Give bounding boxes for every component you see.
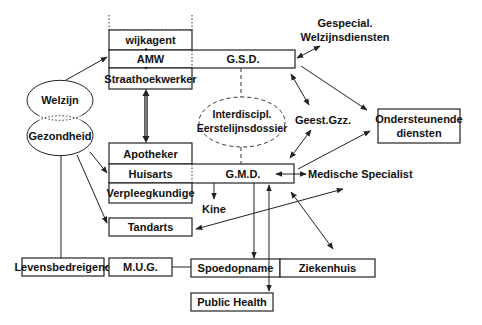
dossier-ellipse-group: Interdiscipl. Eerstelijnsdossier [197,68,287,164]
ondersteunende-label-2: diensten [396,127,442,139]
top-block: wijkagent AMW G.S.D. Straathoekwerker [104,30,295,89]
care-network-diagram: wijkagent AMW G.S.D. Straathoekwerker Ap… [0,0,482,325]
spoedopname-label: Spoedopname [198,262,274,274]
dossier-label-2: Eerstelijnsdossier [197,122,287,134]
bottom-row: Levensbedreigend M.U.G. Spoedopname Ziek… [14,258,375,311]
verpleegkundige-label: Verpleegkundige [106,187,194,199]
straathoek-apotheker-link [143,89,150,143]
tandarts-label: Tandarts [128,221,174,233]
dossier-label-1: Interdiscipl. [213,108,272,120]
ziekenhuis-label: Ziekenhuis [299,262,356,274]
medische-specialist-label: Medische Specialist [308,168,413,180]
geest-gzz-label: Geest.Gzz. [295,114,351,126]
gmd-label: G.M.D. [226,168,261,180]
middle-block: Apotheker Huisarts G.M.D. Verpleegkundig… [106,143,294,203]
mug-label: M.U.G. [123,261,158,273]
gezondheid-label: Gezondheid [29,130,92,142]
gespecial-label-1: Gespecial. [317,17,372,29]
huisarts-label: Huisarts [128,168,172,180]
amw-label: AMW [137,53,165,65]
levensbedreigend-label: Levensbedreigend [14,261,111,273]
public-health-label: Public Health [197,296,267,308]
wijkagent-dotted-frame [109,15,192,30]
gespecial-label-2: Welzijnsdiensten [300,31,389,43]
welzijn-label: Welzijn [41,94,79,106]
ondersteunende-label-1: Ondersteunende [375,113,462,125]
straathoekwerker-label: Straathoekwerker [104,73,197,85]
apotheker-label: Apotheker [123,148,178,160]
kine-label: Kine [202,203,226,215]
wijkagent-label: wijkagent [124,34,175,46]
gsd-label: G.S.D. [226,53,259,65]
ondersteunende-diensten: Ondersteunende diensten [375,109,462,143]
welzijn-gezondheid-ellipses: Welzijn Gezondheid [27,80,93,155]
